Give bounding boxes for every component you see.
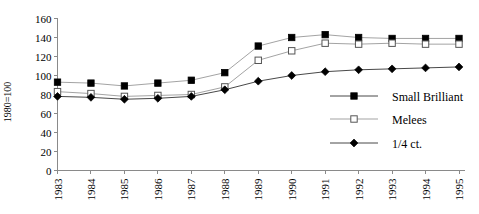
chart-legend: Small BrilliantMelees1/4 ct. <box>330 90 464 151</box>
data-point-marker-filled-square <box>255 43 261 49</box>
y-tick-label: 80 <box>41 89 53 101</box>
chart-container: 1980=100 020406080100120140160 198319841… <box>0 0 479 214</box>
x-tick-label: 1993 <box>386 178 398 201</box>
data-point-marker-open-square <box>289 48 295 54</box>
data-point-marker-filled-diamond <box>355 66 363 74</box>
data-point-marker-filled-square <box>188 77 194 83</box>
data-point-marker-filled-diamond <box>321 68 329 76</box>
data-point-marker-open-square <box>456 41 462 47</box>
line-chart: 1980=100 020406080100120140160 198319841… <box>0 0 479 214</box>
data-point-marker-filled-square <box>351 93 357 99</box>
data-point-marker-filled-diamond <box>350 139 358 147</box>
data-point-marker-open-square <box>389 40 395 46</box>
legend-item-1-4-ct: 1/4 ct. <box>330 137 422 151</box>
y-tick-label: 20 <box>41 146 53 158</box>
legend-label: 1/4 ct. <box>392 137 422 151</box>
legend-item-small-brilliant: Small Brilliant <box>330 90 464 104</box>
x-tick-label: 1988 <box>219 178 231 201</box>
data-point-marker-filled-diamond <box>455 63 463 71</box>
data-point-marker-open-square <box>322 40 328 46</box>
x-tick-label: 1990 <box>286 178 298 201</box>
data-point-marker-open-square <box>255 57 261 63</box>
data-point-marker-filled-square <box>88 80 94 86</box>
x-tick-label: 1986 <box>152 178 164 201</box>
data-point-marker-filled-diamond <box>388 65 396 73</box>
data-point-marker-open-square <box>355 41 361 47</box>
data-point-marker-open-square <box>422 41 428 47</box>
legend-label: Small Brilliant <box>392 90 464 104</box>
y-tick-label: 120 <box>35 51 52 63</box>
y-tick-label: 40 <box>41 127 53 139</box>
data-point-marker-filled-diamond <box>254 77 262 85</box>
y-tick-label: 140 <box>35 32 52 44</box>
x-tick-label: 1995 <box>453 178 465 201</box>
y-tick-label: 160 <box>35 13 52 25</box>
data-point-marker-filled-square <box>121 83 127 89</box>
x-tick-label: 1984 <box>85 178 97 201</box>
x-tick-label: 1991 <box>319 179 331 201</box>
data-point-marker-open-square <box>351 116 357 122</box>
data-point-marker-filled-square <box>155 80 161 86</box>
x-tick-label: 1992 <box>353 179 365 201</box>
series-line <box>58 43 460 96</box>
x-tick-label: 1983 <box>52 178 64 201</box>
y-tick-label: 60 <box>41 108 53 120</box>
data-point-marker-filled-diamond <box>422 64 430 72</box>
y-axis-title-text: 1980=100 <box>2 82 13 123</box>
data-point-marker-filled-square <box>222 69 228 75</box>
x-tick-label: 1994 <box>420 178 432 201</box>
y-tick-label: 0 <box>46 165 52 177</box>
legend-label: Melees <box>392 113 427 127</box>
data-point-marker-filled-square <box>289 34 295 40</box>
data-point-marker-filled-diamond <box>288 72 296 80</box>
y-tick-label: 100 <box>35 70 52 82</box>
x-tick-label: 1987 <box>185 178 197 201</box>
data-point-marker-filled-square <box>54 79 60 85</box>
x-axis-ticks: 1983198419851986198719881989199019911992… <box>52 171 466 201</box>
x-tick-label: 1985 <box>118 178 130 201</box>
data-point-marker-filled-square <box>355 34 361 40</box>
legend-item-melees: Melees <box>330 113 427 127</box>
y-axis-title: 1980=100 <box>2 82 13 123</box>
x-tick-label: 1989 <box>252 178 264 201</box>
data-point-marker-filled-square <box>322 31 328 37</box>
